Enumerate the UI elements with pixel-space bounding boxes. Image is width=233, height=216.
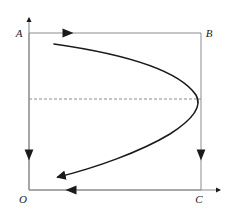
label-O: O [19,193,27,205]
label-C: C [195,193,203,205]
label-A: A [15,27,23,39]
phase-plane-figure: A B O C [0,0,233,216]
edge-direction-arrows [25,29,206,195]
top-edge-arrow-icon [63,29,74,38]
figure-canvas: A B O C [0,0,233,216]
right-edge-arrow-icon [197,150,206,161]
bottom-edge-arrow-icon [66,186,77,195]
trajectory-curve [54,44,198,177]
label-B: B [206,27,213,39]
left-edge-arrow-icon [25,150,34,161]
boundary-rectangle [29,33,201,190]
